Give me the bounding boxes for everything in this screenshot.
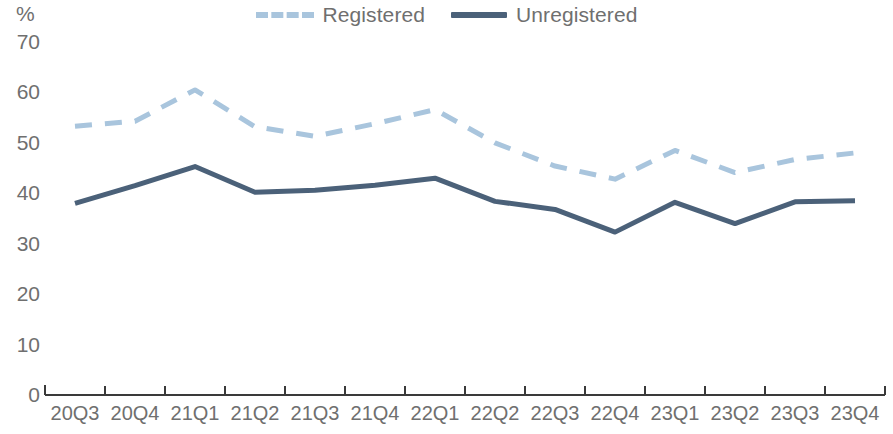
plot-area bbox=[0, 0, 893, 434]
x-tick-label: 23Q4 bbox=[831, 402, 880, 425]
x-tick-label: 23Q1 bbox=[651, 402, 700, 425]
x-tick-label: 21Q2 bbox=[231, 402, 280, 425]
x-tick-label: 21Q4 bbox=[351, 402, 400, 425]
x-tick-label: 23Q3 bbox=[771, 402, 820, 425]
x-tick-label: 22Q2 bbox=[471, 402, 520, 425]
x-tick-label: 22Q4 bbox=[591, 402, 640, 425]
x-tick-label: 23Q2 bbox=[711, 402, 760, 425]
x-tick-label: 20Q3 bbox=[51, 402, 100, 425]
line-chart: Registered Unregistered % 70605040302010… bbox=[0, 0, 893, 434]
x-tick-label: 21Q3 bbox=[291, 402, 340, 425]
x-tick-label: 20Q4 bbox=[111, 402, 160, 425]
x-tick-label: 22Q1 bbox=[411, 402, 460, 425]
x-tick-label: 22Q3 bbox=[531, 402, 580, 425]
x-tick-label: 21Q1 bbox=[171, 402, 220, 425]
series-line-unregistered bbox=[75, 167, 855, 233]
